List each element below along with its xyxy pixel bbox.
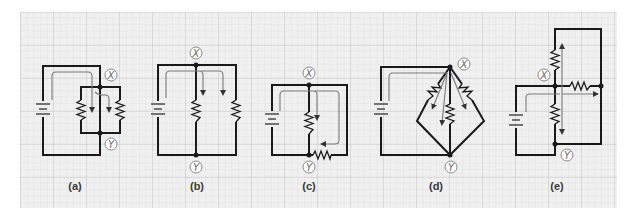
node-label-x: X (190, 47, 202, 59)
svg-text:X: X (192, 48, 201, 59)
node-label-x: X (458, 58, 470, 70)
node-label-x: X (105, 69, 117, 81)
svg-text:Y: Y (564, 150, 571, 161)
svg-text:Y: Y (193, 162, 200, 173)
junction-node-x (98, 85, 103, 90)
svg-text:X: X (540, 70, 549, 81)
junction-node-right (599, 84, 604, 89)
node-label-x: X (303, 67, 315, 79)
svg-text:X: X (107, 70, 116, 81)
junction-node-y (448, 153, 453, 158)
node-label-x: X (538, 69, 550, 81)
svg-text:Y: Y (108, 139, 115, 150)
junction-node-x (448, 65, 453, 70)
node-label-y: Y (445, 161, 457, 173)
junction-node-x (194, 63, 199, 68)
node-label-y: Y (190, 161, 202, 173)
svg-text:Y: Y (448, 162, 455, 173)
panel-label: (d) (429, 180, 443, 192)
junction-node-y (553, 142, 558, 147)
svg-text:Y: Y (306, 162, 313, 173)
circuit-figure: X Y (a) X Y (b) (0, 0, 635, 216)
node-label-y: Y (105, 138, 117, 150)
junction-node-y (307, 153, 312, 158)
svg-text:X: X (460, 59, 469, 70)
junction-node-y (98, 131, 103, 136)
svg-text:X: X (305, 68, 314, 79)
panel-label: (e) (550, 180, 564, 192)
panel-label: (a) (68, 180, 82, 192)
panel-label: (c) (302, 180, 316, 192)
node-label-y: Y (561, 149, 573, 161)
junction-node-x (553, 84, 558, 89)
junction-node-y (194, 153, 199, 158)
junction-node-x (307, 83, 312, 88)
panel-label: (b) (190, 180, 204, 192)
node-label-y: Y (303, 161, 315, 173)
